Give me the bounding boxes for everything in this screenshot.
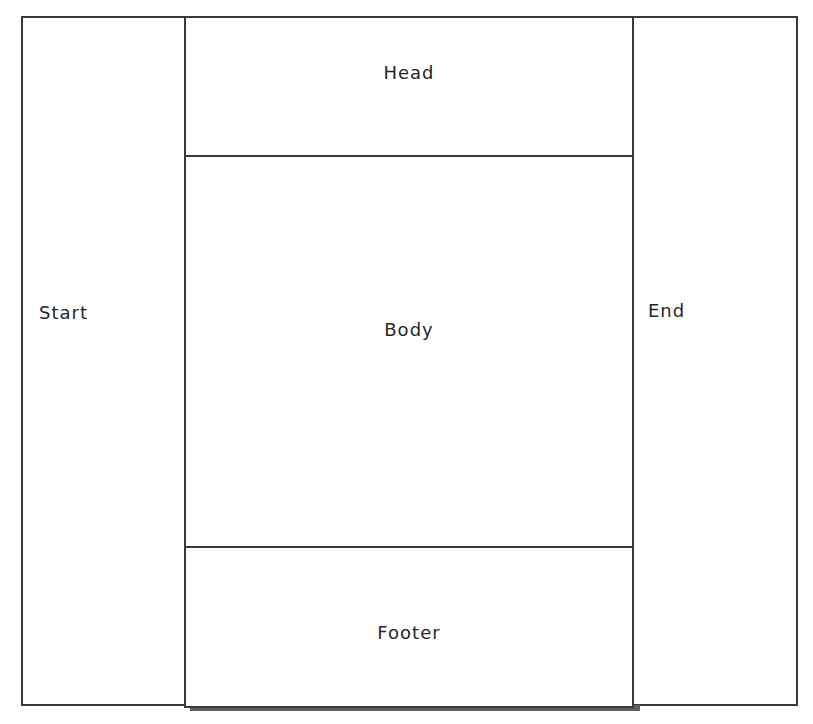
head-region: Head — [184, 16, 634, 157]
end-region: End — [632, 16, 798, 706]
footer-label: Footer — [186, 622, 632, 643]
start-label: Start — [39, 302, 88, 323]
end-label: End — [648, 300, 685, 321]
body-label: Body — [186, 319, 632, 340]
footer-region: Footer — [184, 546, 634, 708]
body-region: Body — [184, 155, 634, 548]
start-region: Start — [21, 16, 186, 706]
head-label: Head — [186, 62, 632, 83]
